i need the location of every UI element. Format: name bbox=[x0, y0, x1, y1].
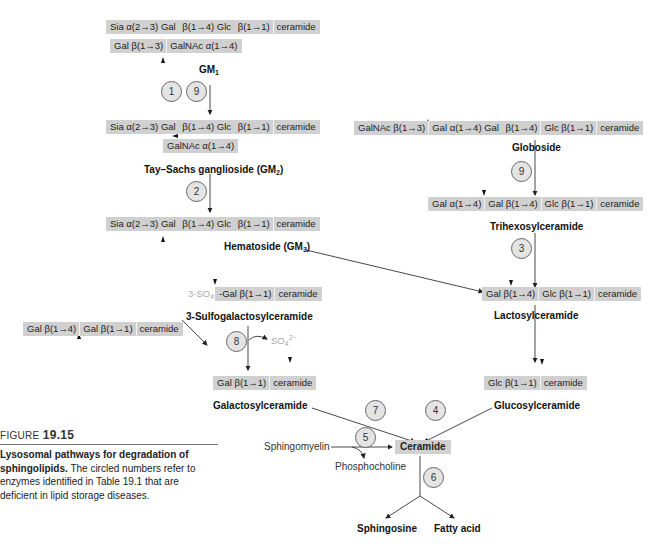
sulfate-product: SO42− bbox=[271, 334, 297, 347]
sphingomyelin-label: Sphingomyelin bbox=[264, 441, 330, 452]
chain-segment: ceramide bbox=[277, 20, 316, 34]
chain-segment: Gal α(1→4) bbox=[432, 197, 481, 211]
bond-divider bbox=[274, 287, 275, 301]
bond-divider bbox=[273, 20, 274, 34]
bond-divider bbox=[269, 376, 270, 390]
chain-segment: ceramide bbox=[600, 197, 639, 211]
chain-segment: Glc β(1→1) bbox=[488, 376, 537, 390]
chain-segment: β(1→1) bbox=[238, 217, 270, 231]
chain-segment: Glc β(1→1) bbox=[545, 197, 594, 211]
chain-segment: Glc β(1→1) bbox=[542, 287, 591, 301]
lactosylceramide-chain: Gal β(1→4)Glc β(1→1)ceramide bbox=[482, 287, 641, 301]
chain-segment: β(1→4) Glc bbox=[182, 217, 231, 231]
glucosylceramide-label: Glucosylceramide bbox=[494, 400, 580, 411]
bond-divider bbox=[540, 376, 541, 390]
bond-divider bbox=[136, 322, 137, 336]
phosphocholine-label: Phosphocholine bbox=[335, 461, 406, 472]
enzyme-9-marker: 9 bbox=[186, 81, 207, 102]
chain-segment: Glc β(1→1) bbox=[544, 121, 593, 135]
globoside-label: Globoside bbox=[512, 142, 561, 153]
bond-divider bbox=[538, 287, 539, 301]
chain-segment: Gal α(1→4) Gal bbox=[432, 121, 499, 135]
bond-divider bbox=[273, 217, 274, 231]
chain-segment: ceramide bbox=[277, 120, 316, 134]
chain-segment: Sia α(2→3) Gal bbox=[110, 217, 176, 231]
fatty-acid-label: Fatty acid bbox=[434, 523, 481, 534]
chain-segment: GalNAc α(1→4) bbox=[170, 39, 237, 53]
caption-text: Lysosomal pathways for degradation of sp… bbox=[0, 448, 218, 502]
sulfate-group-prefix: 3-SO4 bbox=[188, 288, 214, 300]
enzyme-5-marker: 5 bbox=[355, 427, 376, 448]
gm2-main-chain: Sia α(2→3) Gal β(1→4) Glc β(1→1)ceramide bbox=[106, 120, 320, 134]
globoside-chain: GalNAc β(1→3)Gal α(1→4) Gal β(1→4)Glc β(… bbox=[354, 121, 643, 135]
enzyme-2-marker: 2 bbox=[186, 181, 207, 202]
ceramide-box: Ceramide bbox=[395, 440, 451, 454]
gm1-main-chain: Sia α(2→3) Gal β(1→4) Glc β(1→1)ceramide bbox=[106, 20, 320, 34]
chain-segment: β(1→1) bbox=[238, 120, 270, 134]
chain-segment: Gal β(1→1) bbox=[217, 376, 266, 390]
enzyme-7-marker: 7 bbox=[365, 400, 386, 421]
gm1-label: GM1 bbox=[199, 64, 219, 76]
enzyme-4-marker: 4 bbox=[425, 400, 446, 421]
bond-divider bbox=[594, 287, 595, 301]
chain-segment: Gal β(1→3) bbox=[114, 39, 163, 53]
trihexosylceramide-label: Trihexosylceramide bbox=[490, 221, 583, 232]
sphingosine-label: Sphingosine bbox=[357, 523, 417, 534]
enzyme-1-marker: 1 bbox=[161, 81, 182, 102]
chain-segment: -Gal β(1→1) bbox=[219, 287, 271, 301]
chain-segment: Gal β(1→4) bbox=[486, 287, 535, 301]
chain-segment: ceramide bbox=[600, 121, 639, 135]
chain-segment: Gal β(1→4) bbox=[27, 322, 76, 336]
chain-segment: β(1→4) bbox=[506, 121, 538, 135]
enzyme-8-marker: 8 bbox=[226, 331, 247, 352]
chain-segment: ceramide bbox=[278, 287, 317, 301]
chain-segment: GalNAc α(1→4) bbox=[167, 139, 234, 153]
lactosylceramide-label: Lactosylceramide bbox=[494, 310, 579, 321]
chain-segment: β(1→1) bbox=[238, 20, 270, 34]
enzyme-6-marker: 6 bbox=[423, 467, 444, 488]
gm2-label: Tay–Sachs ganglioside (GM2) bbox=[144, 164, 283, 176]
bond-divider bbox=[596, 197, 597, 211]
gm3-chain: Sia α(2→3) Gal β(1→4) Glc β(1→1)ceramide bbox=[106, 217, 320, 231]
figure-caption: FIGURE 19.15 Lysosomal pathways for degr… bbox=[0, 428, 218, 502]
bond-divider bbox=[484, 197, 485, 211]
bond-divider bbox=[166, 39, 167, 53]
galactosylceramide-label: Galactosylceramide bbox=[213, 400, 308, 411]
galactosylceramide-chain: Gal β(1→1)ceramide bbox=[213, 376, 316, 390]
enzyme-9-marker: 9 bbox=[511, 161, 532, 182]
chain-segment: Gal β(1→4) bbox=[488, 197, 537, 211]
gm2-branch: GalNAc α(1→4) bbox=[163, 139, 238, 153]
glucosylceramide-chain: Glc β(1→1)ceramide bbox=[484, 376, 587, 390]
sulfogalactosylceramide-chain: -Gal β(1→1)ceramide bbox=[215, 287, 322, 301]
enzyme-3-marker: 3 bbox=[511, 238, 532, 259]
chain-segment: β(1→4) Glc bbox=[182, 120, 231, 134]
bond-divider bbox=[273, 120, 274, 134]
gm1-branch: Gal β(1→3)GalNAc α(1→4) bbox=[110, 39, 242, 53]
chain-segment: ceramide bbox=[544, 376, 583, 390]
chain-segment: ceramide bbox=[277, 217, 316, 231]
bond-divider bbox=[541, 197, 542, 211]
chain-segment: Sia α(2→3) Gal bbox=[110, 20, 176, 34]
chain-segment: ceramide bbox=[140, 322, 179, 336]
gm3-label: Hematoside (GM3) bbox=[224, 241, 310, 253]
sulfogalactosylceramide-label: 3-Sulfogalactosylceramide bbox=[186, 311, 313, 322]
chain-segment: GalNAc β(1→3) bbox=[358, 121, 425, 135]
bond-divider bbox=[540, 121, 541, 135]
chain-segment: ceramide bbox=[598, 287, 637, 301]
chain-segment: Sia α(2→3) Gal bbox=[110, 120, 176, 134]
chain-segment: β(1→4) Glc bbox=[182, 20, 231, 34]
digalactosylceramide-chain: Gal β(1→4)Gal β(1→1)ceramide bbox=[23, 322, 183, 336]
figure-number: FIGURE 19.15 bbox=[0, 428, 218, 445]
chain-segment: Gal β(1→1) bbox=[83, 322, 132, 336]
bond-divider bbox=[428, 121, 429, 135]
trihexosylceramide-chain: Gal α(1→4)Gal β(1→4)Glc β(1→1)ceramide bbox=[428, 197, 643, 211]
bond-divider bbox=[79, 322, 80, 336]
bond-divider bbox=[596, 121, 597, 135]
chain-segment: ceramide bbox=[273, 376, 312, 390]
